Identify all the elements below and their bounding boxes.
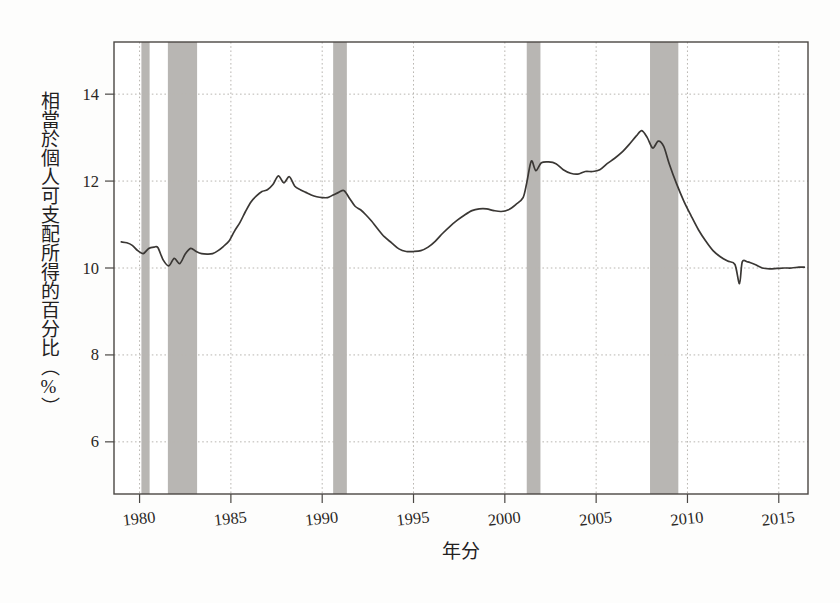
y-axis-title: 相當於個人可支配所得的百分比（%） xyxy=(28,88,58,418)
x-tick-label-2010: 2010 xyxy=(669,507,704,529)
x-axis-ticks-group: 19801985199019952000200520102015 xyxy=(122,494,796,530)
recession-1990-1991 xyxy=(333,42,347,494)
x-tick-label-1985: 1985 xyxy=(213,507,248,529)
x-tick-label-2005: 2005 xyxy=(578,507,613,529)
x-tick-label-2000: 2000 xyxy=(487,507,522,529)
x-axis-title: 年分 xyxy=(442,541,480,562)
x-tick-label-2015: 2015 xyxy=(761,507,796,529)
y-tick-label-10: 10 xyxy=(83,259,100,278)
x-tick-label-1990: 1990 xyxy=(304,507,339,529)
x-tick-label-1995: 1995 xyxy=(396,507,431,529)
y-axis-ticks-group: 68101214 xyxy=(83,85,115,452)
y-tick-label-6: 6 xyxy=(91,432,99,451)
y-tick-label-14: 14 xyxy=(83,85,100,104)
line-chart: 19801985199019952000200520102015 6810121… xyxy=(0,0,840,603)
figure-container: 相當於個人可支配所得的百分比（%） 1980198519901995200020… xyxy=(0,0,840,603)
y-tick-label-12: 12 xyxy=(83,172,100,191)
plot-background xyxy=(114,42,808,494)
x-tick-label-1980: 1980 xyxy=(122,507,157,529)
y-tick-label-8: 8 xyxy=(91,345,99,364)
